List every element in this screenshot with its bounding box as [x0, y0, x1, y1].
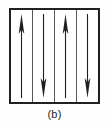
figure-caption: (b) — [0, 106, 109, 122]
domain-cell-4 — [77, 10, 98, 102]
domain-cell-2 — [33, 10, 55, 102]
arrow-up-icon-3 — [61, 14, 70, 98]
figure-panel-b: (b) — [0, 0, 109, 129]
arrow-up-icon-1 — [17, 14, 26, 98]
arrow-down-icon-4 — [83, 14, 92, 98]
domain-cell-3 — [55, 10, 77, 102]
domain-cell-1 — [11, 10, 33, 102]
arrow-down-icon-2 — [39, 14, 48, 98]
domain-cell-group — [11, 10, 98, 102]
